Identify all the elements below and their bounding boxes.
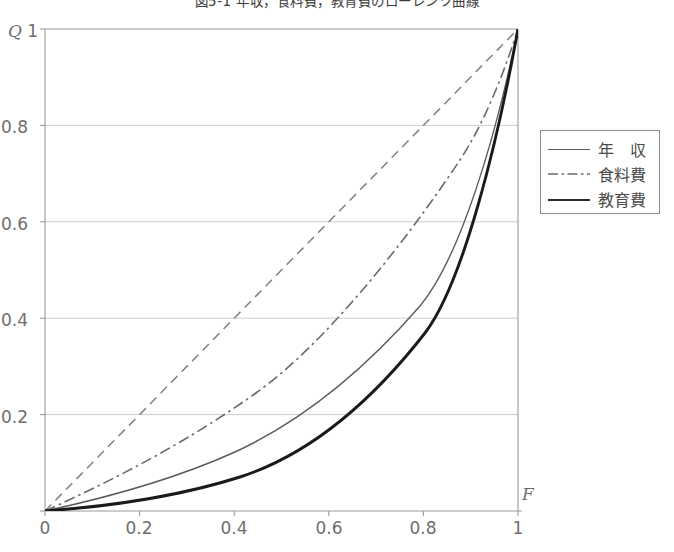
legend-label-food: 食料費 (598, 162, 646, 186)
legend: 年 収 食料費 教育費 (540, 130, 660, 214)
legend-line-sample-income-icon (548, 143, 590, 155)
y-tick-label-0.6: 0.6 (0, 214, 28, 234)
lorenz-curve-figure: 1 0.8 0.6 0.4 0.2 0 0.2 0.4 0.6 0.8 1 Q … (0, 0, 674, 552)
legend-label-education: 教育費 (598, 187, 646, 211)
legend-item-food: 食料費 (541, 161, 659, 186)
x-tick-label-0.4: 0.4 (209, 518, 259, 538)
legend-line-sample-food-icon (548, 168, 590, 180)
y-tick-marks (40, 29, 45, 511)
y-axis-name: Q (8, 21, 22, 41)
y-tick-label-0.4: 0.4 (0, 310, 28, 330)
x-axis-name: F (522, 484, 534, 504)
legend-item-income: 年 収 (541, 136, 659, 161)
x-tick-label-0.8: 0.8 (398, 518, 448, 538)
y-tick-label-0.2: 0.2 (0, 407, 28, 427)
plot-canvas (0, 0, 674, 552)
y-tick-label-0.8: 0.8 (0, 117, 28, 137)
x-tick-label-0.2: 0.2 (114, 518, 164, 538)
legend-item-education: 教育費 (541, 186, 659, 211)
x-tick-label-0: 0 (20, 518, 70, 538)
x-tick-label-1: 1 (493, 518, 543, 538)
x-tick-marks (45, 511, 518, 516)
x-tick-label-0.6: 0.6 (304, 518, 354, 538)
legend-label-income: 年 収 (598, 137, 646, 161)
legend-line-sample-education-icon (548, 193, 590, 205)
curve-group (45, 29, 518, 511)
equality-line-curve (45, 29, 518, 511)
